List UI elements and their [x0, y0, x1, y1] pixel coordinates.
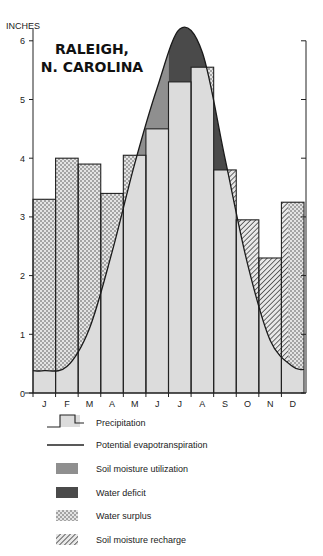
svg-text:3: 3	[20, 212, 25, 222]
svg-text:0: 0	[20, 389, 25, 399]
svg-text:J: J	[42, 399, 47, 409]
svg-text:Precipitation: Precipitation	[96, 418, 146, 428]
svg-text:J: J	[178, 399, 183, 409]
svg-text:Water surplus: Water surplus	[96, 511, 152, 521]
legend-item-pe: Potential evapotranspiration	[47, 440, 208, 450]
svg-text:A: A	[109, 399, 115, 409]
svg-text:Soil moisture utilization: Soil moisture utilization	[96, 464, 188, 474]
svg-text:Soil moisture recharge: Soil moisture recharge	[96, 535, 186, 545]
svg-text:INCHES: INCHES	[6, 21, 40, 31]
svg-text:2: 2	[20, 271, 25, 281]
legend-item-deficit: Water deficit	[56, 487, 146, 498]
svg-text:N: N	[267, 399, 274, 409]
legend-item-utilization: Soil moisture utilization	[56, 463, 188, 474]
svg-text:M: M	[86, 399, 94, 409]
svg-text:F: F	[64, 399, 70, 409]
svg-text:D: D	[289, 399, 296, 409]
svg-text:Water deficit: Water deficit	[96, 488, 146, 498]
svg-text:S: S	[222, 399, 228, 409]
y-axis-label: INCHES	[6, 21, 40, 31]
chart-title: RALEIGH, N. CAROLINA	[41, 41, 144, 75]
svg-text:N. CAROLINA: N. CAROLINA	[41, 59, 144, 75]
legend-item-precipitation: Precipitation	[47, 415, 146, 428]
svg-text:Potential evapotranspiration: Potential evapotranspiration	[96, 440, 208, 450]
legend-item-surplus: Water surplus	[56, 510, 152, 521]
svg-text:O: O	[244, 399, 251, 409]
svg-text:RALEIGH,: RALEIGH,	[55, 41, 129, 57]
legend: PrecipitationPotential evapotranspiratio…	[47, 415, 208, 545]
svg-text:4: 4	[20, 154, 25, 164]
legend-item-recharge: Soil moisture recharge	[56, 534, 186, 545]
svg-text:J: J	[155, 399, 160, 409]
svg-text:6: 6	[20, 36, 25, 46]
water-budget-chart: INCHES RALEIGH, N. CAROLINA 0123456JFMAM…	[0, 0, 323, 556]
svg-text:M: M	[131, 399, 139, 409]
svg-text:1: 1	[20, 330, 25, 340]
svg-text:5: 5	[20, 95, 25, 105]
svg-text:A: A	[199, 399, 205, 409]
